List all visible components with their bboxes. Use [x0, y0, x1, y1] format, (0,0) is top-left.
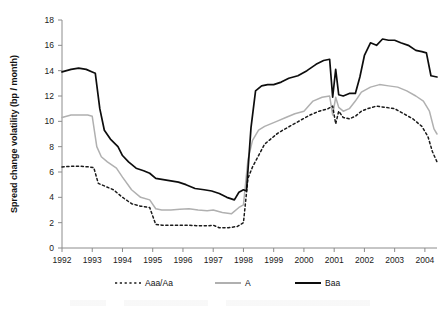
- x-axis: 1992199319941995199619971998199920002001…: [53, 248, 437, 265]
- x-tick-label: 1999: [264, 255, 283, 265]
- chart-legend: Aaa/AaABaa: [115, 278, 340, 288]
- legend-item-a: A: [245, 278, 251, 288]
- x-tick-label: 1995: [143, 255, 162, 265]
- x-tick-label: 1993: [83, 255, 102, 265]
- x-tick-label: 2001: [325, 255, 344, 265]
- y-axis: 024681012141618 Spread change volatility…: [9, 15, 62, 253]
- series-line-aaa-aa: [62, 106, 437, 228]
- chart-canvas: 024681012141618 Spread change volatility…: [0, 0, 446, 309]
- x-axis-ticks: 1992199319941995199619971998199920002001…: [53, 248, 435, 265]
- y-tick-label: 18: [45, 15, 55, 25]
- x-tick-label: 1998: [234, 255, 253, 265]
- y-tick-label: 2: [49, 218, 54, 228]
- x-tick-label: 1997: [204, 255, 223, 265]
- y-tick-label: 6: [49, 167, 54, 177]
- plot-series-group: [62, 39, 437, 228]
- y-tick-label: 14: [45, 66, 55, 76]
- y-axis-ticks: 024681012141618: [45, 15, 62, 253]
- spread-change-volatility-chart: 024681012141618 Spread change volatility…: [0, 0, 446, 309]
- y-tick-label: 12: [45, 91, 55, 101]
- y-tick-label: 8: [49, 142, 54, 152]
- caption-ghost-artifact: [70, 300, 370, 306]
- legend-item-aaa-aa: Aaa/Aa: [145, 278, 173, 288]
- x-tick-label: 1996: [174, 255, 193, 265]
- x-tick-label: 2003: [385, 255, 404, 265]
- y-tick-label: 10: [45, 116, 55, 126]
- y-tick-label: 4: [49, 192, 54, 202]
- x-tick-label: 1994: [113, 255, 132, 265]
- x-tick-label: 2002: [355, 255, 374, 265]
- y-tick-label: 0: [49, 243, 54, 253]
- x-tick-label: 1992: [53, 255, 72, 265]
- x-tick-label: 2000: [294, 255, 313, 265]
- y-axis-title: Spread change volatility (bp / month): [9, 55, 19, 213]
- y-tick-label: 16: [45, 40, 55, 50]
- legend-item-baa: Baa: [325, 278, 340, 288]
- x-tick-label: 2004: [415, 255, 434, 265]
